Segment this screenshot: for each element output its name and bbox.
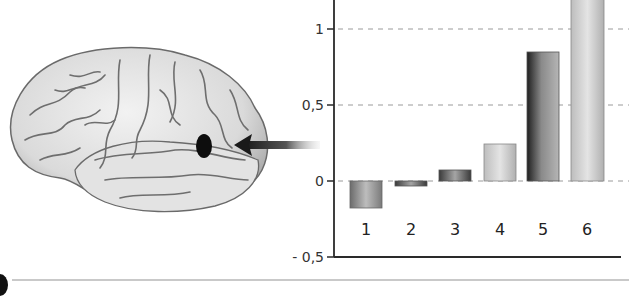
ytick-label-neg-0-5: - 0,5 bbox=[292, 249, 324, 265]
bar-4 bbox=[484, 144, 516, 181]
bars bbox=[350, 0, 604, 208]
ytick-label-0-5: 0,5 bbox=[302, 97, 324, 113]
bar-2 bbox=[395, 181, 427, 186]
ytick-label-0: 0 bbox=[315, 173, 324, 189]
y-ticks bbox=[327, 29, 334, 257]
category-label-1: 1 bbox=[361, 220, 371, 239]
category-label-4: 4 bbox=[495, 220, 505, 239]
ytick-label-1: 1 bbox=[315, 21, 324, 37]
category-label-6: 6 bbox=[582, 220, 592, 239]
bottom-divider bbox=[12, 279, 629, 281]
bar-1 bbox=[350, 181, 382, 208]
category-label-3: 3 bbox=[450, 220, 460, 239]
category-label-2: 2 bbox=[406, 220, 416, 239]
category-label-5: 5 bbox=[538, 220, 548, 239]
bar-5 bbox=[527, 52, 559, 181]
bar-3 bbox=[439, 170, 471, 181]
bar-6 bbox=[571, 0, 604, 181]
